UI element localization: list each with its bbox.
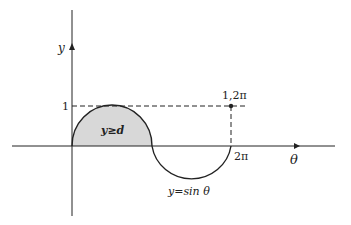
region-label: y≥d [100,124,125,137]
x-tick-two-pi: 2π [234,150,248,163]
diagram-canvas: y θ 1 2π 1,2π y≥d y=sin θ [0,0,351,225]
y-tick-one: 1 [62,100,69,113]
point-label: 1,2π [222,89,247,102]
y-axis-label: y [57,41,65,55]
y-axis-arrow-icon [69,43,75,50]
x-axis-label: θ [290,152,298,167]
curve-label: y=sin θ [167,185,210,198]
x-axis-arrow-icon [294,143,300,149]
point-marker [229,104,233,108]
